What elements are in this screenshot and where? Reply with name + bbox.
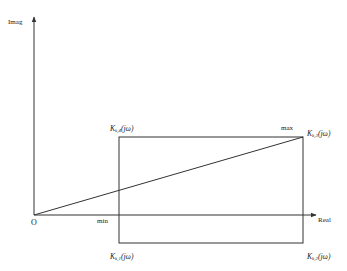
max-label: max: [281, 124, 293, 132]
vertex-label-k4: Kk,4(jω): [110, 124, 133, 135]
vertex-label-k3: Kk,3(jω): [307, 129, 330, 140]
real-axis-label: Real: [318, 216, 331, 224]
imag-axis-label: Imag: [8, 18, 22, 26]
uncertainty-rectangle: [119, 137, 303, 243]
vertex-label-k2: Kk,2(jω): [307, 252, 330, 263]
vertex-label-k1: Kk,1(jω): [110, 252, 133, 263]
complex-plane-diagram: [0, 0, 347, 271]
origin-label: O: [31, 219, 37, 227]
min-label: min: [97, 217, 108, 225]
origin-to-max-line: [34, 137, 303, 215]
